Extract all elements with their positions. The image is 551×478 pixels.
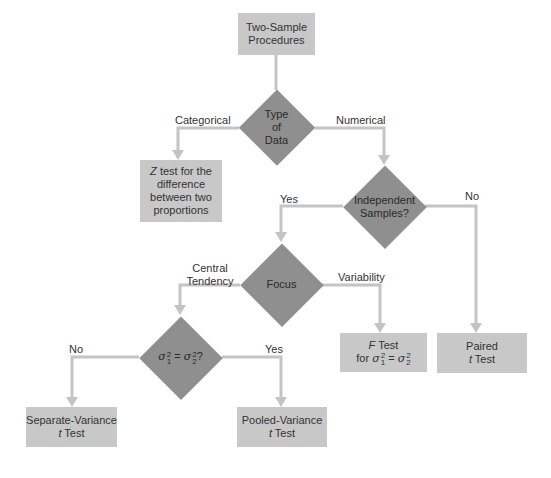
- sigma-1: σ: [158, 350, 166, 363]
- independent-samples-decision: Independent Samples?: [343, 165, 426, 248]
- f-test-line-1-rest: Test: [375, 339, 398, 351]
- paired-line-2: t Test: [469, 353, 495, 366]
- focus-decision: Focus: [240, 243, 323, 326]
- z-test-line-1: Z test for the: [150, 165, 212, 178]
- equals: =: [171, 350, 184, 362]
- separate-line-2-rest: Test: [62, 427, 85, 439]
- separate-line-2: t Test: [58, 427, 84, 440]
- start-label-1: Two-Sample: [246, 21, 307, 34]
- f-sub-2: 2: [406, 359, 410, 366]
- central-line-2: Tendency: [180, 275, 240, 288]
- f-test-for: for: [356, 352, 372, 364]
- start-node: Two-Sample Procedures: [238, 13, 315, 55]
- f-sigma-1: σ: [372, 352, 380, 365]
- type-label-1: Type: [265, 108, 289, 121]
- edge-label-indep-yes: Yes: [280, 193, 298, 206]
- paired-t-test-node: Paired t Test: [437, 333, 527, 373]
- z-test-line-3: between two: [150, 191, 212, 204]
- indep-label-1: Independent: [354, 194, 415, 207]
- separate-variance-t-test-node: Separate-Variance t Test: [26, 407, 117, 447]
- focus-label: Focus: [267, 278, 297, 291]
- f-test-line-1: F Test: [369, 339, 399, 352]
- edge-label-central-tendency: Central Tendency: [180, 262, 240, 288]
- z-test-line-2: difference: [157, 178, 205, 191]
- edge-label-var-yes: Yes: [265, 343, 283, 356]
- equal-variance-label: σ21 = σ22?: [158, 350, 203, 364]
- edge-label-numerical: Numerical: [336, 114, 386, 127]
- start-label-2: Procedures: [248, 34, 304, 47]
- type-label-3: Data: [265, 134, 289, 147]
- type-label-2: of: [265, 121, 289, 134]
- paired-line-2-rest: Test: [472, 353, 495, 365]
- edge-label-var-no: No: [69, 343, 83, 356]
- pooled-line-1: Pooled-Variance: [242, 414, 323, 427]
- type-of-data-decision: Type of Data: [238, 89, 315, 166]
- f-test-line-2: for σ21 = σ22: [356, 352, 410, 366]
- pooled-line-2: t Test: [269, 427, 295, 440]
- pooled-line-2-rest: Test: [272, 427, 295, 439]
- equal-variance-decision: σ21 = σ22?: [139, 316, 222, 399]
- f-equals: =: [385, 352, 398, 364]
- edge-label-indep-no: No: [465, 190, 479, 203]
- paired-line-1: Paired: [466, 340, 498, 353]
- f-test-node: F Test for σ21 = σ22: [340, 333, 427, 372]
- question-mark: ?: [197, 350, 203, 362]
- sigma-2: σ: [184, 350, 192, 363]
- f-sigma-2: σ: [398, 352, 406, 365]
- z-test-node: Z test for the difference between two pr…: [140, 160, 222, 222]
- indep-label-2: Samples?: [354, 207, 415, 220]
- z-var: Z: [150, 165, 157, 177]
- central-line-1: Central: [180, 262, 240, 275]
- edge-label-categorical: Categorical: [175, 114, 231, 127]
- z-test-line-4: proportions: [153, 204, 208, 217]
- z-test-line-1-rest: test for the: [157, 165, 212, 177]
- pooled-variance-t-test-node: Pooled-Variance t Test: [237, 407, 327, 447]
- separate-line-1: Separate-Variance: [26, 414, 117, 427]
- edge-label-variability: Variability: [338, 271, 385, 284]
